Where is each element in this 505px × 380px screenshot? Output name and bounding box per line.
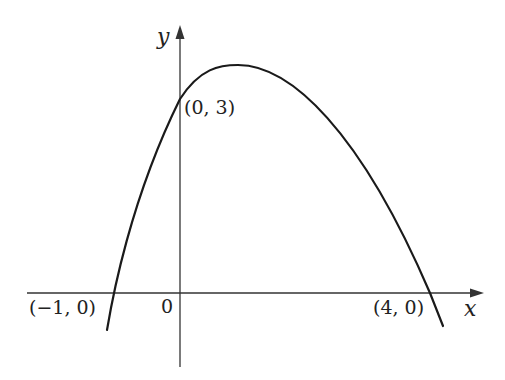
point-left-label: (−1, 0) — [29, 296, 96, 318]
y-intercept-label: (0, 3) — [184, 96, 235, 118]
y-axis-label: y — [156, 24, 170, 49]
parabola-curve — [107, 65, 443, 330]
y-axis-arrow-icon — [176, 25, 185, 39]
parabola-graph: y x 0 (−1, 0) (4, 0) (0, 3) — [0, 0, 505, 380]
point-right-label: (4, 0) — [373, 296, 424, 318]
x-axis-label: x — [464, 296, 477, 321]
origin-label: 0 — [161, 295, 173, 317]
